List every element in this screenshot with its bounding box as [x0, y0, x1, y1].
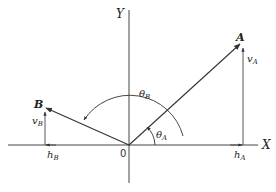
- v-a-label: vA: [247, 53, 258, 66]
- h-a-label: hA: [234, 149, 246, 162]
- theta-b-arc: [84, 95, 183, 136]
- theta-a-label: θA: [156, 129, 167, 142]
- h-b-label: hB: [47, 149, 59, 162]
- vector-b: [46, 108, 129, 145]
- theta-a-arc: [147, 127, 155, 145]
- x-axis-label: X: [261, 138, 271, 152]
- y-axis-label: Y: [116, 7, 125, 21]
- v-b-label: vB: [32, 115, 43, 128]
- point-b-label: B: [33, 98, 43, 111]
- vector-angle-diagram: Y X 0 A B vA hA vB hB θB θA: [0, 0, 276, 192]
- point-a-label: A: [235, 31, 245, 44]
- origin-label: 0: [120, 148, 126, 159]
- theta-b-label: θB: [139, 88, 150, 101]
